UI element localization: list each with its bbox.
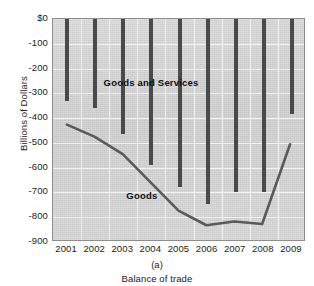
x-tick-label: 2009 bbox=[271, 243, 311, 254]
series-label-goods: Goods bbox=[126, 190, 157, 201]
y-tick-label: -700 bbox=[2, 185, 48, 196]
x-axis-tick-labels: 200120022003200420052006200720082009 bbox=[52, 243, 305, 257]
plot-area: Goods and Services Goods bbox=[52, 18, 305, 241]
y-tick-label: -900 bbox=[2, 235, 48, 246]
figure-caption: Balance of trade bbox=[0, 273, 314, 284]
y-tick-label: -400 bbox=[2, 111, 48, 122]
balance-of-trade-figure: Billions of Dollars $0-100-200-300-400-5… bbox=[0, 0, 314, 286]
panel-letter: (a) bbox=[0, 259, 314, 270]
y-tick-label: $0 bbox=[2, 12, 48, 23]
y-axis-tick-labels: $0-100-200-300-400-500-600-700-800-900 bbox=[0, 0, 48, 286]
series-label-goods-and-services: Goods and Services bbox=[104, 77, 199, 88]
y-tick-label: -200 bbox=[2, 62, 48, 73]
y-tick-label: -300 bbox=[2, 86, 48, 97]
y-tick-label: -800 bbox=[2, 210, 48, 221]
y-tick-label: -500 bbox=[2, 136, 48, 147]
goods-line-path bbox=[67, 125, 290, 226]
line-series-goods bbox=[53, 19, 304, 240]
y-tick-label: -100 bbox=[2, 37, 48, 48]
y-tick-label: -600 bbox=[2, 161, 48, 172]
